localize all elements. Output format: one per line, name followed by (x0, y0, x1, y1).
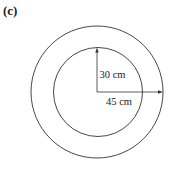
inner-radius-arrowhead-icon (95, 48, 98, 53)
concentric-circles-diagram: (c) 30 cm 45 cm (0, 0, 180, 173)
outer-radius-arrowhead-icon (158, 90, 163, 93)
outer-radius-label: 45 cm (106, 96, 132, 107)
figure-label: (c) (3, 3, 17, 18)
inner-radius-label: 30 cm (100, 69, 126, 80)
